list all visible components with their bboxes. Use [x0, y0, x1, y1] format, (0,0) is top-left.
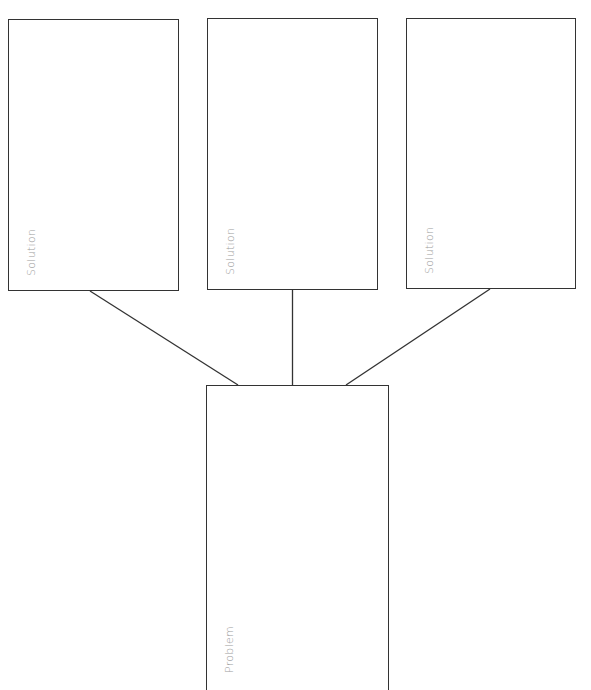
solution-label: Solution: [424, 227, 435, 274]
solution-box-2: Solution: [207, 18, 378, 290]
solution-box-1: Solution: [8, 19, 179, 291]
problem-box: Problem: [206, 385, 389, 690]
problem-label: Problem: [224, 626, 235, 673]
connector-solution-3-to-problem: [346, 289, 490, 385]
solution-label: Solution: [225, 228, 236, 275]
solution-label: Solution: [26, 229, 37, 276]
connector-solution-1-to-problem: [90, 291, 238, 385]
solution-box-3: Solution: [406, 18, 576, 289]
